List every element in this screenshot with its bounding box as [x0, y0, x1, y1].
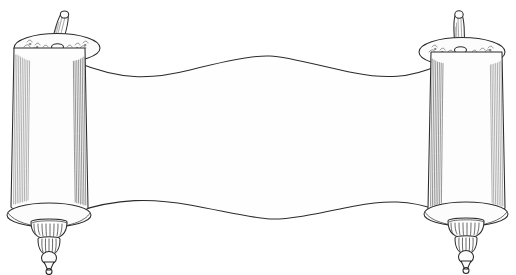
- torah-scroll-drawing: [0, 0, 516, 275]
- right-roller-body: [428, 52, 505, 212]
- left-roller-body: [11, 48, 88, 211]
- scroll-illustration: Open Torah scroll line drawing: [0, 0, 516, 275]
- parchment-outline: [76, 56, 437, 219]
- parchment-sheet: [76, 56, 437, 219]
